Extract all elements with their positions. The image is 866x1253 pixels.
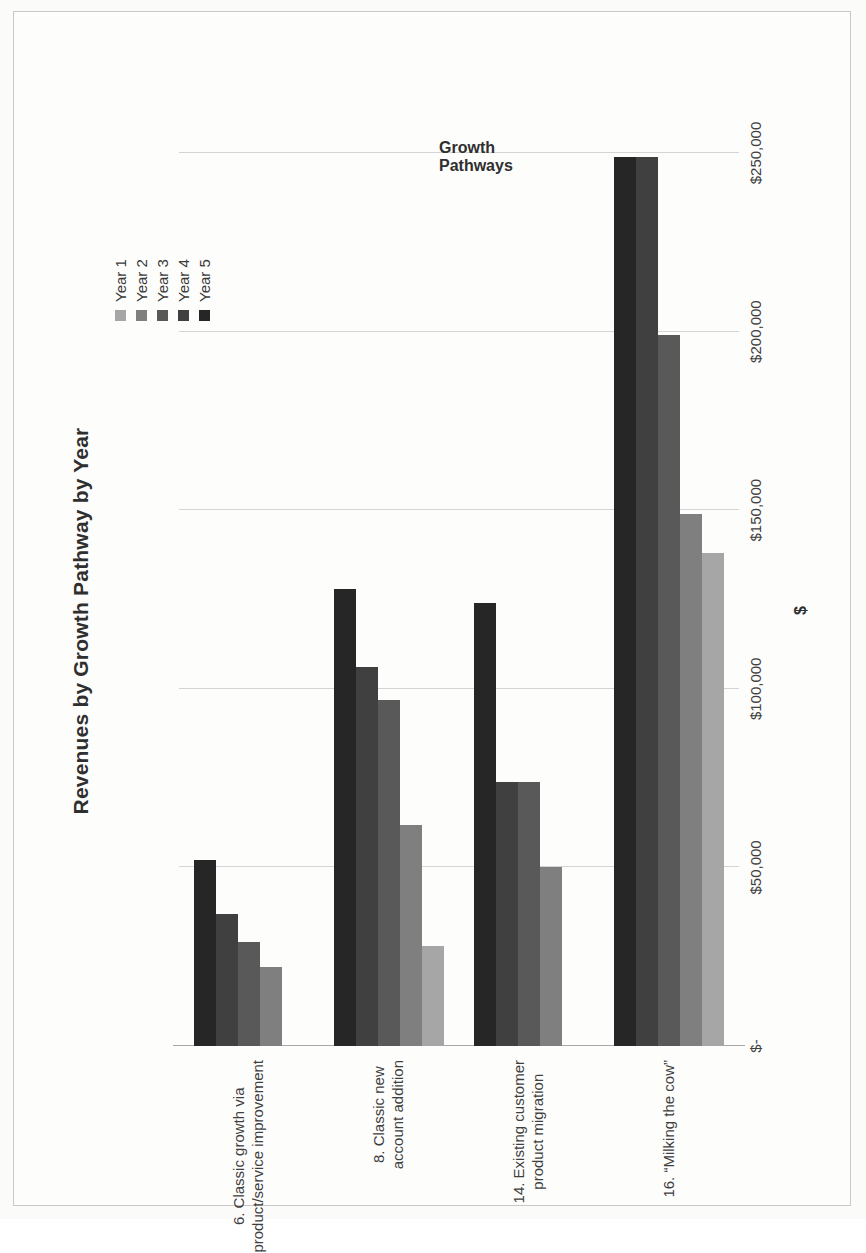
legend-item: Year 1 <box>113 259 128 321</box>
bar <box>194 860 216 1046</box>
bar <box>658 335 680 1046</box>
bar <box>378 700 400 1046</box>
bar <box>518 782 540 1046</box>
legend-swatch-icon <box>136 310 147 321</box>
category-axis-label-line: 16. “Milking the cow” <box>660 1060 679 1198</box>
bar <box>238 942 260 1046</box>
category-axis-label-line: 14. Existing customer <box>510 1060 529 1203</box>
rotated-chart-canvas: Revenues by Growth Pathway by Year Year … <box>47 41 847 1201</box>
bar <box>702 553 724 1046</box>
value-axis-title: $ <box>792 606 810 615</box>
chart-frame: Revenues by Growth Pathway by Year Year … <box>13 11 851 1206</box>
value-axis-tick-label: $150,000 <box>747 479 764 542</box>
category-axis-label: 14. Existing customerproduct migration <box>510 1060 548 1203</box>
legend-item: Year 3 <box>155 259 170 321</box>
bar <box>260 967 282 1046</box>
value-axis-tick-label: $100,000 <box>747 658 764 721</box>
category-axis-label: 8. Classic newaccount addition <box>370 1060 408 1169</box>
category-axis-label-line: 6. Classic growth via <box>230 1060 249 1253</box>
value-axis-tick-label: $250,000 <box>747 122 764 185</box>
bar <box>334 589 356 1046</box>
legend-item-label: Year 1 <box>112 259 129 302</box>
category-axis-label-line: product migration <box>529 1060 548 1203</box>
bar <box>474 603 496 1046</box>
category-axis-label: 16. “Milking the cow” <box>660 1060 679 1198</box>
value-axis-tick-label: $- <box>747 1039 764 1052</box>
legend-item: Year 2 <box>134 259 149 321</box>
value-axis-tick-label: $50,000 <box>747 840 764 894</box>
category-axis-label-line: account addition <box>389 1060 408 1169</box>
legend-item-label: Year 2 <box>133 259 150 302</box>
bar <box>356 667 378 1046</box>
legend-item-label: Year 3 <box>154 259 171 302</box>
bar <box>422 946 444 1046</box>
value-axis-tick-label: $200,000 <box>747 300 764 363</box>
bar <box>400 825 422 1046</box>
bar <box>680 514 702 1046</box>
legend-swatch-icon <box>115 310 126 321</box>
category-axis-title: Growth Pathways <box>439 139 537 175</box>
category-axis-label: 6. Classic growth viaproduct/service imp… <box>230 1060 268 1253</box>
bar <box>216 914 238 1046</box>
bar <box>540 867 562 1046</box>
bar <box>496 782 518 1046</box>
chart-title: Revenues by Growth Pathway by Year <box>69 41 93 1201</box>
bar <box>636 157 658 1046</box>
category-axis-label-line: 8. Classic new <box>370 1060 389 1169</box>
plot-area: $-$50,000$100,000$150,000$200,000$250,00… <box>179 153 739 1046</box>
legend-swatch-icon <box>157 310 168 321</box>
bar <box>614 157 636 1046</box>
category-axis-label-line: product/service improvement <box>249 1060 268 1253</box>
